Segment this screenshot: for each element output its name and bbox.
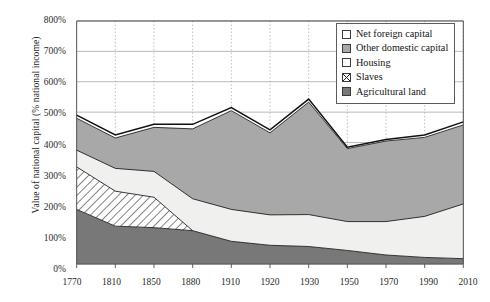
y-tick-label: 800% [44, 15, 66, 25]
chart-figure: Value of national capital (% national in… [0, 0, 490, 302]
x-tick-label: 1990 [419, 277, 438, 287]
y-tick-label: 100% [44, 233, 66, 243]
x-tick-label: 1920 [261, 277, 280, 287]
x-tick-label: 1930 [300, 277, 319, 287]
x-tick-label: 1880 [181, 277, 200, 287]
y-axis-ticks: 800% 700% 600% 500% 400% 300% 200% 100% … [0, 0, 66, 302]
x-tick-label: 1770 [63, 277, 82, 287]
legend-item-net-foreign-capital: Net foreign capital [342, 27, 448, 41]
legend-label: Other domestic capital [356, 43, 448, 53]
y-tick-label: 300% [44, 171, 66, 181]
legend-swatch-icon [342, 58, 351, 67]
legend-swatch-icon [342, 44, 351, 53]
x-tick-marks [77, 264, 464, 268]
y-tick-label: 700% [44, 46, 66, 56]
legend-label: Agricultural land [356, 87, 426, 97]
x-tick-label: 2010 [459, 277, 478, 287]
legend-item-agricultural-land: Agricultural land [342, 85, 448, 99]
legend-item-other-domestic-capital: Other domestic capital [342, 41, 448, 55]
legend-label: Housing [356, 58, 391, 68]
chart-legend: Net foreign capital Other domestic capit… [336, 23, 455, 104]
legend-label: Net foreign capital [356, 29, 432, 39]
x-tick-label: 1970 [379, 277, 398, 287]
legend-swatch-hatched-icon [342, 73, 351, 82]
y-tick-label: 600% [44, 77, 66, 87]
y-tick-label: 200% [44, 202, 66, 212]
legend-label: Slaves [356, 72, 383, 82]
x-tick-label: 1910 [221, 277, 240, 287]
y-tick-label: 400% [44, 140, 66, 150]
legend-swatch-icon [342, 87, 351, 96]
legend-item-housing: Housing [342, 56, 448, 70]
legend-item-slaves: Slaves [342, 70, 448, 84]
x-tick-label: 1850 [142, 277, 161, 287]
y-tick-label: 0% [53, 264, 66, 274]
x-tick-label: 1810 [102, 277, 121, 287]
y-tick-label: 500% [44, 108, 66, 118]
x-tick-label: 1950 [340, 277, 359, 287]
legend-swatch-icon [342, 30, 351, 39]
